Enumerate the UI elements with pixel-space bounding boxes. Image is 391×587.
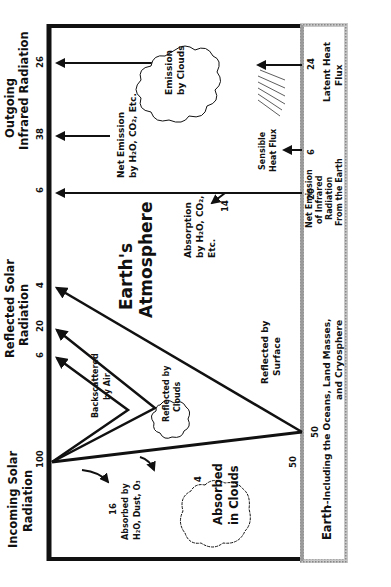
value-surface-absorbed: 50 [288, 456, 298, 468]
earth-subtitle-line1: --Including the Oceans, Land Masses, [322, 319, 332, 508]
header-outgoing-line2: Infrared Radiation [17, 31, 31, 150]
header-reflected: Reflected Solar Radiation [3, 259, 31, 358]
earth-subtitle-line2: and Cryosphere [334, 320, 344, 400]
absorption-line2: by H₂O, CO₂, [195, 195, 205, 258]
value-latent-heat: 24 [306, 58, 316, 70]
value-reflected-clouds: 20 [35, 320, 45, 332]
latent-heat-line2: Flux [334, 64, 344, 86]
net-ir-earth-line1: Net Emission [305, 169, 314, 228]
value-ir-clouds: 26 [35, 56, 45, 68]
net-ir-earth-line4: From the Earth [335, 158, 344, 226]
value-absorbed-clouds: 4 [193, 476, 203, 482]
cloud-rain-hatch [258, 70, 285, 116]
reflected-surface-line1: Reflected by [260, 320, 270, 384]
backscattered-line2: by Air [103, 373, 112, 400]
atmosphere-title-line2: Atmosphere [136, 201, 156, 318]
net-emission-line2: by H₂O, CO₂, Etc. [128, 93, 138, 178]
absorption-line3: Etc. [207, 239, 217, 258]
absorbed-h2o-line1: Absorbed by [121, 482, 130, 540]
absorbed-h2o-line2: H₂O, Dust, O₃ [133, 480, 142, 540]
reflected-clouds-line1: Reflected by [162, 365, 171, 422]
value-sensible-heat: 6 [306, 149, 316, 155]
value-ir-net-h2o: 6 [35, 187, 45, 193]
value-incoming: 100 [35, 450, 45, 468]
header-reflected-line1: Reflected Solar [3, 259, 17, 358]
value-ir-net-emission: 38 [35, 128, 45, 140]
sensible-heat-line2: Heat Flux [269, 128, 278, 172]
header-incoming: Incoming Solar Radiation [6, 451, 35, 548]
backscatter-path [52, 358, 128, 462]
header-reflected-line2: Radiation [17, 284, 31, 346]
value-reflected-surface: 4 [35, 282, 45, 288]
header-incoming-line2: Radiation [21, 470, 35, 532]
emission-clouds-line1: Emission [164, 50, 174, 95]
value-absorbed-h2o: 16 [108, 503, 118, 515]
header-incoming-line1: Incoming Solar [6, 451, 20, 548]
header-outgoing: Outgoing Infrared Radiation [3, 31, 31, 150]
energy-budget-diagram: Incoming Solar Radiation Reflected Solar… [0, 0, 391, 587]
earth-title: Earth [320, 505, 334, 540]
backscattered-line1: Backscattered [91, 353, 100, 418]
net-emission-line1: Net Emission [116, 112, 126, 178]
value-backscattered: 6 [35, 352, 45, 358]
net-ir-earth-line3: Radiation [325, 177, 334, 220]
absorption-line1: Absorption [183, 202, 193, 258]
reflected-clouds-line2: Clouds [173, 381, 182, 412]
reflected-surface-line2: Surface [272, 337, 282, 376]
atmosphere-title-line1: Earth's [116, 243, 136, 310]
absorbed-clouds-arrow [140, 457, 154, 470]
latent-heat-line1: Latent Heat [322, 41, 332, 102]
value-absorption: 14 [220, 200, 230, 212]
header-outgoing-line1: Outgoing [3, 78, 17, 138]
absorbed-clouds-line1: Absorbed [211, 463, 225, 525]
atmosphere-title: Earth's Atmosphere [116, 201, 156, 318]
net-ir-earth-line2: of Infrared [315, 175, 324, 224]
absorbed-h2o-arrow [82, 470, 108, 482]
emission-clouds-line2: by Clouds [176, 45, 186, 95]
sensible-heat-line1: Sensible [258, 131, 267, 170]
absorbed-clouds-line2: in Clouds [227, 465, 241, 525]
value-surface-reflect: 50 [310, 426, 320, 438]
